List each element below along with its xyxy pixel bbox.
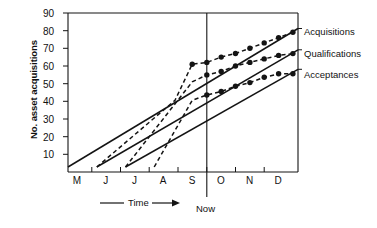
- x-tick-label-jun: J: [97, 175, 115, 186]
- data-point: [262, 75, 267, 80]
- y-tick-label-80: 80: [30, 26, 54, 37]
- y-tick-label-30: 30: [30, 114, 54, 125]
- series-label-connectors: [298, 29, 302, 70]
- y-tick-marks: [63, 13, 68, 154]
- y-tick-label-20: 20: [30, 132, 54, 143]
- data-point: [204, 92, 209, 97]
- data-point: [233, 63, 238, 68]
- actual-series: [97, 32, 293, 167]
- now-annotation-label: Now: [196, 203, 215, 214]
- data-point: [262, 56, 267, 61]
- x-tick-marks: [92, 167, 264, 172]
- time-axis-label: Time: [128, 197, 149, 208]
- x-tick-label-sep: S: [183, 175, 201, 186]
- data-point: [204, 72, 209, 77]
- x-tick-label-dec: D: [269, 175, 287, 186]
- actual-line-qualifications: [126, 54, 293, 167]
- y-tick-label-90: 90: [30, 8, 54, 19]
- data-point: [190, 61, 195, 66]
- x-tick-label-jul: J: [126, 175, 144, 186]
- x-tick-label-may: M: [68, 175, 86, 186]
- data-point: [233, 84, 238, 89]
- y-tick-label-60: 60: [30, 61, 54, 72]
- y-tick-label-10: 10: [30, 149, 54, 160]
- data-point: [233, 51, 238, 56]
- chart-figure: No. asset acquisitions 90 80 70 60 50 40…: [0, 0, 377, 228]
- y-tick-label-70: 70: [30, 43, 54, 54]
- data-point: [247, 80, 252, 85]
- time-arrow-head: [172, 200, 180, 207]
- data-point: [219, 69, 224, 74]
- y-tick-label-40: 40: [30, 96, 54, 107]
- data-point: [290, 71, 295, 76]
- data-point: [204, 60, 209, 65]
- series-label-acquisitions: Acquisitions: [304, 26, 355, 37]
- markers-acceptances: [204, 71, 295, 98]
- series-label-acceptances: Acceptances: [304, 69, 358, 80]
- target-line-acceptances: [126, 69, 299, 167]
- data-point: [290, 30, 295, 35]
- data-point: [290, 51, 295, 56]
- target-lines: [68, 29, 298, 168]
- data-point: [247, 46, 252, 51]
- data-point: [219, 89, 224, 94]
- actual-line-acceptances: [154, 74, 293, 167]
- x-tick-label-oct: O: [212, 175, 230, 186]
- data-point: [247, 60, 252, 65]
- data-point: [219, 54, 224, 59]
- y-tick-label-50: 50: [30, 79, 54, 90]
- x-tick-label-aug: A: [154, 175, 172, 186]
- series-label-qualifications: Qualifications: [304, 48, 361, 59]
- data-point: [262, 40, 267, 45]
- target-line-acquisitions: [68, 29, 298, 168]
- data-point: [276, 53, 281, 58]
- data-point: [276, 35, 281, 40]
- data-point: [276, 71, 281, 76]
- x-tick-label-nov: N: [241, 175, 259, 186]
- target-line-qualifications: [97, 50, 298, 167]
